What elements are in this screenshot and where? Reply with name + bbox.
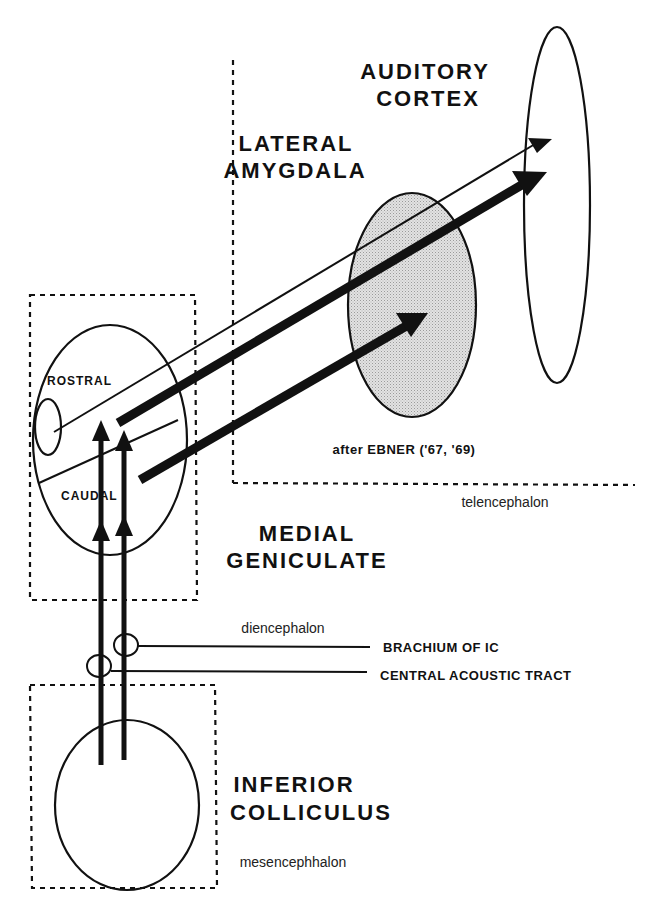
central-acoustic-leader [87,655,367,677]
inferior-colliculus-shape [55,720,199,890]
auditory-cortex-shape [524,27,590,383]
citation-label: after EBNER ('67, '69) [333,442,476,457]
medial-geniculate-shape [33,325,187,555]
telencephalon-label: telencephalon [461,494,548,510]
central-acoustic-tract-label: CENTRAL ACOUSTIC TRACT [380,668,572,683]
lateral-amygdala-label-1: LATERAL [238,131,353,156]
diencephalon-label: diencephalon [241,620,324,636]
mg-to-cortex-thick-arrow [118,171,547,423]
caudal-label: CAUDAL [61,489,118,503]
medial-geniculate-label-1: MEDIAL [259,521,355,546]
lateral-amygdala-label-2: AMYGDALA [223,158,366,183]
brachium-leader [114,634,370,656]
mesencephalon-label: mesencephhalon [240,854,347,870]
brachium-ic-label: BRACHIUM OF IC [383,640,499,655]
auditory-cortex-label-2: CORTEX [376,86,480,111]
brachium-ic-arrow [115,430,133,760]
auditory-cortex-label-1: AUDITORY [360,59,490,84]
rostral-nucleus-shape [35,399,61,455]
inferior-colliculus-label-2: COLLICULUS [230,800,392,825]
inferior-colliculus-label-1: INFERIOR [233,772,354,797]
auditory-pathway-diagram: AUDITORY CORTEX LATERAL AMYGDALA ROSTRAL… [0,0,662,915]
rostral-label: ROSTRAL [47,374,112,388]
central-acoustic-tract-arrow [92,420,110,765]
medial-geniculate-label-2: GENICULATE [226,548,387,573]
